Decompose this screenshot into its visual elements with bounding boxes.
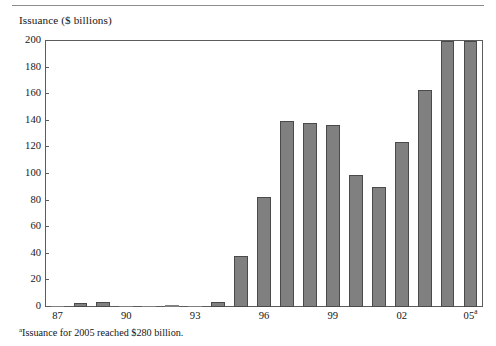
bar-92	[165, 305, 179, 307]
bar-00	[349, 175, 363, 307]
footnote-text: Issuance for 2005 reached $280 billion.	[22, 327, 183, 338]
y-tick-label: 120	[1, 141, 41, 152]
y-tick-label: 140	[1, 115, 41, 126]
bar-94	[211, 302, 225, 307]
y-tick-mark	[45, 253, 49, 254]
bar-05	[464, 41, 478, 307]
bar-89	[96, 302, 110, 307]
y-tick-label: 160	[1, 88, 41, 99]
x-tick-label: 05a	[464, 310, 478, 322]
bar-98	[303, 123, 317, 307]
y-tick-mark	[45, 226, 49, 227]
x-tick-label: 93	[190, 310, 201, 322]
y-tick-mark	[45, 279, 49, 280]
bar-99	[326, 125, 340, 307]
bar-95	[234, 256, 248, 307]
issuance-bar-chart-figure: Issuance ($ billions) 020406080100120140…	[0, 0, 496, 346]
y-tick-label: 40	[1, 248, 41, 259]
bar-02	[395, 142, 409, 307]
bar-96	[257, 197, 271, 307]
y-tick-mark	[45, 146, 49, 147]
x-tick-label-footnote-marker: a	[474, 308, 477, 316]
y-tick-label: 60	[1, 221, 41, 232]
y-tick-label: 0	[1, 301, 41, 312]
y-tick-label: 20	[1, 274, 41, 285]
y-tick-label: 80	[1, 195, 41, 206]
top-divider-rule	[12, 5, 484, 6]
y-tick-mark	[45, 200, 49, 201]
x-axis-labels: 87909396990205a	[46, 310, 482, 326]
chart-footnote: aIssuance for 2005 reached $280 billion.	[19, 327, 183, 339]
y-tick-mark	[45, 173, 49, 174]
x-tick-label: 99	[328, 310, 339, 322]
y-tick-label: 100	[1, 168, 41, 179]
y-tick-mark	[45, 120, 49, 121]
bar-97	[280, 121, 294, 307]
bar-01	[372, 187, 386, 307]
bar-88	[74, 303, 88, 307]
bar-91	[142, 306, 156, 308]
y-tick-mark	[45, 67, 49, 68]
y-tick-label: 200	[1, 35, 41, 46]
x-tick-label: 87	[52, 310, 63, 322]
x-tick-label: 90	[121, 310, 132, 322]
y-axis-labels: 020406080100120140160180200	[0, 40, 41, 307]
y-tick-label: 180	[1, 62, 41, 73]
bar-04	[441, 41, 455, 307]
bar-87	[51, 306, 65, 308]
bar-03	[418, 90, 432, 307]
y-tick-mark	[45, 93, 49, 94]
chart-axis-title: Issuance ($ billions)	[19, 14, 112, 26]
bar-90	[119, 306, 133, 308]
x-tick-label: 96	[259, 310, 270, 322]
bar-93	[188, 306, 202, 308]
x-tick-label: 02	[396, 310, 407, 322]
bars-layer	[46, 41, 482, 307]
